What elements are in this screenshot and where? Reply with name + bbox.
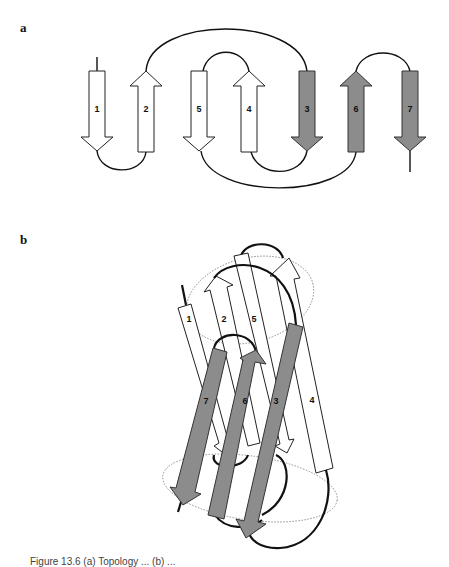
loop-2-3 bbox=[146, 29, 307, 71]
strand-7-label: 7 bbox=[407, 104, 412, 114]
loop-4-5 bbox=[203, 52, 249, 71]
strand-1-label: 1 bbox=[94, 104, 99, 114]
strand-4-label: 4 bbox=[246, 104, 251, 114]
strand-6-arrow: 6 bbox=[340, 71, 372, 152]
strand-b-6-label: 6 bbox=[242, 396, 247, 406]
strand-1-arrow: 1 bbox=[81, 71, 113, 151]
strand-2-label: 2 bbox=[143, 104, 148, 114]
loop-3-4 bbox=[251, 151, 307, 171]
strand-b-1-label: 1 bbox=[186, 314, 191, 324]
loop-1-2 bbox=[97, 151, 146, 170]
n-terminus-b bbox=[182, 285, 186, 305]
strand-7-arrow: 7 bbox=[394, 71, 426, 151]
strand-2-arrow: 2 bbox=[130, 71, 162, 152]
strand-6-label: 6 bbox=[353, 104, 358, 114]
strand-b-7-label: 7 bbox=[203, 396, 208, 406]
strand-b-4-label: 4 bbox=[309, 395, 314, 405]
strand-b-5-label: 5 bbox=[251, 314, 256, 324]
loop-6-7 bbox=[356, 53, 410, 71]
figure-caption-partial: Figure 13.6 (a) Topology ... (b) ... bbox=[30, 556, 175, 567]
c-terminus-b bbox=[178, 502, 181, 512]
panel-a-topology: 1 2 5 4 3 6 7 bbox=[81, 29, 426, 188]
loop-5-6 bbox=[201, 151, 356, 188]
strand-b-2-label: 2 bbox=[221, 314, 226, 324]
strand-3-label: 3 bbox=[304, 104, 309, 114]
panel-b-3d-schematic: 1 2 5 4 7 bbox=[158, 243, 341, 548]
strand-3-arrow: 3 bbox=[291, 71, 323, 151]
strand-5-label: 5 bbox=[196, 104, 201, 114]
strand-4-arrow: 4 bbox=[233, 71, 265, 152]
strand-5-arrow: 5 bbox=[183, 71, 215, 151]
strand-b-3-label: 3 bbox=[273, 396, 278, 406]
